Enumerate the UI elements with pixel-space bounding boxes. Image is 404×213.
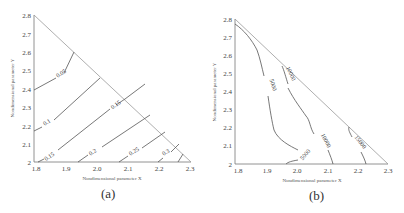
y-axis-label-b: Nondimensional parameter Y [212, 62, 217, 121]
svg-text:0.3: 0.3 [161, 148, 171, 157]
svg-text:2.1: 2.1 [324, 167, 333, 175]
y-axis-ticks-b: 2.8 2.7 2.6 2.5 2.4 2.3 2.2 2.1 2 [223, 16, 232, 169]
svg-text:0.15: 0.15 [110, 99, 122, 110]
svg-text:2.1: 2.1 [124, 165, 133, 173]
svg-text:2.4: 2.4 [22, 86, 31, 94]
contour-plot-a: 0.05 0.1 0.15 0.15 0.2 0.25 0.3 2.8 2.7 … [0, 0, 202, 213]
contour-labels-b: 10000 5000 10000 15000 5000 [269, 65, 368, 161]
svg-text:5000: 5000 [299, 148, 311, 161]
svg-text:2.3: 2.3 [186, 165, 195, 173]
y-axis-ticks-a: 2.8 2.7 2.6 2.5 2.4 2.3 2.2 2.1 2 [22, 12, 31, 167]
svg-text:2.7: 2.7 [22, 31, 31, 39]
panel-caption-a: (a) [101, 186, 115, 202]
svg-text:2.4: 2.4 [223, 88, 232, 96]
svg-text:2.3: 2.3 [223, 106, 232, 114]
contour-plot-b: 10000 5000 10000 15000 5000 2.8 2.7 2.6 … [202, 0, 404, 213]
panel-caption-b: (b) [309, 188, 324, 204]
svg-text:2.1: 2.1 [22, 141, 31, 149]
svg-text:1.9: 1.9 [263, 167, 272, 175]
svg-text:2: 2 [229, 161, 233, 169]
svg-text:2.2: 2.2 [223, 124, 232, 132]
svg-text:2.2: 2.2 [155, 165, 164, 173]
svg-text:1.9: 1.9 [62, 165, 71, 173]
svg-text:2.5: 2.5 [223, 70, 232, 78]
chart-panel-a: 0.05 0.1 0.15 0.15 0.2 0.25 0.3 2.8 2.7 … [0, 0, 202, 213]
svg-text:2.5: 2.5 [22, 67, 31, 75]
svg-text:5000: 5000 [269, 78, 278, 91]
svg-text:0.2: 0.2 [88, 148, 98, 157]
svg-text:1.8: 1.8 [234, 167, 243, 175]
contour-lines-b [235, 24, 366, 164]
y-axis-label-a: Nondimensional parameter Y [10, 58, 15, 117]
x-axis-label-b: Nondimensional parameter X [282, 178, 342, 183]
svg-text:2.0: 2.0 [93, 165, 102, 173]
svg-text:2.1: 2.1 [223, 142, 232, 150]
x-axis-ticks-b: 1.8 1.9 2.0 2.1 2.2 2.3 [234, 167, 393, 175]
x-axis-label-a: Nondimensional parameter X [82, 176, 142, 181]
svg-text:2.6: 2.6 [223, 52, 232, 60]
svg-text:0.1: 0.1 [42, 118, 52, 127]
svg-text:1.8: 1.8 [32, 165, 41, 173]
contour-lines-a [34, 52, 183, 162]
svg-text:2.2: 2.2 [22, 123, 31, 131]
svg-text:0.15: 0.15 [43, 151, 55, 162]
chart-panel-b: 10000 5000 10000 15000 5000 2.8 2.7 2.6 … [202, 0, 404, 213]
svg-text:2.8: 2.8 [223, 16, 232, 24]
svg-text:2.6: 2.6 [22, 49, 31, 57]
x-axis-ticks-a: 1.8 1.9 2.0 2.1 2.2 2.3 [32, 165, 195, 173]
svg-text:0.25: 0.25 [128, 146, 140, 157]
svg-text:15000: 15000 [353, 134, 367, 150]
svg-text:2.0: 2.0 [293, 167, 302, 175]
svg-text:2.2: 2.2 [354, 167, 363, 175]
svg-text:2.8: 2.8 [22, 12, 31, 20]
svg-text:10000: 10000 [320, 132, 332, 148]
svg-text:2.3: 2.3 [22, 104, 31, 112]
svg-text:2.3: 2.3 [384, 167, 393, 175]
svg-text:2.7: 2.7 [223, 34, 232, 42]
